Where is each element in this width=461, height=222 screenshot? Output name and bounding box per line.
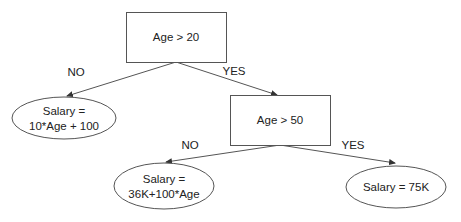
node-label: Salary = xyxy=(143,173,186,185)
edge-root-to-mid: YES xyxy=(176,62,277,95)
node-leaf_right: Salary = 75K xyxy=(346,166,446,208)
node-label: Age > 20 xyxy=(153,31,199,43)
decision-tree-diagram: NOYESNOYES Age > 20Salary =10*Age + 100A… xyxy=(0,0,461,222)
edge-label: NO xyxy=(181,139,198,151)
node-label: 10*Age + 100 xyxy=(29,120,99,132)
edge-label: YES xyxy=(222,65,245,77)
node-label: Salary = 75K xyxy=(363,181,429,193)
edge-label: NO xyxy=(67,66,84,78)
arrow-icon xyxy=(280,145,395,163)
node-label: 36K+100*Age xyxy=(128,188,199,200)
edge-label: YES xyxy=(341,139,364,151)
node-label: Salary = xyxy=(43,105,86,117)
nodes: Age > 20Salary =10*Age + 100Age > 50Sala… xyxy=(12,13,446,210)
leaf-ellipse xyxy=(114,163,214,209)
node-root: Age > 20 xyxy=(127,13,227,63)
node-leaf_mid: Salary =36K+100*Age xyxy=(114,163,214,209)
edge-root-to-leaf_left: NO xyxy=(67,62,176,96)
node-mid: Age > 50 xyxy=(231,96,331,146)
leaf-ellipse xyxy=(12,97,116,139)
node-leaf_left: Salary =10*Age + 100 xyxy=(12,97,116,139)
node-label: Age > 50 xyxy=(257,114,303,126)
